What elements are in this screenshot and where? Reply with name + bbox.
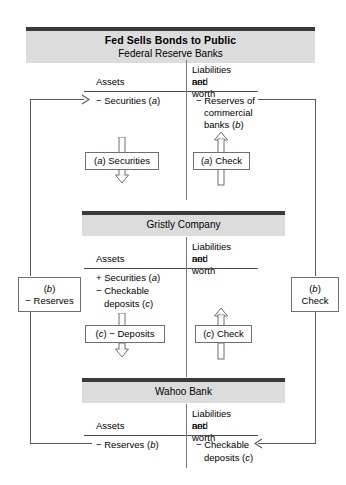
flow-box-securities-a: (a) Securities [85, 152, 159, 170]
section-header-fed: Fed Sells Bonds to Public Federal Reserv… [26, 27, 315, 63]
gristly-col-liabilities-line2: net worth [192, 253, 215, 276]
gristly-asset-entry-1: + Securities (a) [96, 272, 160, 284]
connector-left-top [30, 99, 84, 100]
fed-col-assets: Assets [96, 76, 125, 88]
gristly-title: Gristly Company [82, 215, 285, 236]
side-box-check-b: (b) Check [291, 277, 339, 312]
side-box-check-label-bottom: Check [302, 295, 329, 307]
connector-right-bottom [258, 443, 316, 444]
header-band-fed: Fed Sells Bonds to Public Federal Reserv… [26, 31, 315, 63]
fed-asset-entry-1: − Securities (a) [96, 95, 160, 107]
connector-right-vertical-lower [315, 312, 316, 443]
gristly-asset-entry-3: deposits (c) [104, 298, 153, 310]
arrowhead-left-wahoo-liabilities [252, 437, 264, 450]
connector-right-vertical-upper [315, 99, 316, 276]
arrowhead-right-fed-assets [80, 93, 92, 106]
side-box-check-label-top: (b) [309, 283, 321, 295]
side-box-reserves-label-top: (b) [44, 283, 56, 295]
connector-right-top [258, 99, 316, 100]
figure-title: Fed Sells Bonds to Public [26, 31, 315, 47]
fed-liability-entry-2: commercial [204, 107, 253, 119]
fed-center-divider [186, 60, 187, 200]
gristly-asset-entry-2: − Checkable [96, 285, 149, 297]
flow-box-check-a: (a) Check [193, 152, 250, 170]
wahoo-title: Wahoo Bank [82, 382, 285, 403]
gristly-col-assets: Assets [96, 253, 125, 265]
fed-column-rule [84, 91, 258, 92]
flow-box-check-c: (c) Check [195, 325, 252, 343]
connector-left-vertical-lower [30, 312, 31, 443]
wahoo-column-rule [84, 435, 258, 436]
side-box-reserves-label-bottom: − Reserves [25, 295, 73, 307]
wahoo-center-divider [186, 404, 187, 468]
section-header-wahoo: Wahoo Bank [82, 378, 285, 403]
wahoo-liability-entry-2: deposits (c) [204, 452, 253, 464]
gristly-column-rule [84, 268, 258, 269]
header-band-gristly: Gristly Company [82, 215, 285, 236]
flow-box-deposits-c: (c) − Deposits [85, 325, 165, 343]
wahoo-asset-entry-1: − Reserves (b) [96, 439, 159, 451]
connector-left-vertical-upper [30, 99, 31, 276]
side-box-reserves-b: (b) − Reserves [18, 277, 81, 312]
gristly-center-divider [186, 237, 187, 377]
header-band-wahoo: Wahoo Bank [82, 382, 285, 403]
wahoo-col-assets: Assets [96, 420, 125, 432]
figure-subtitle: Federal Reserve Banks [26, 47, 315, 63]
section-header-gristly: Gristly Company [82, 211, 285, 236]
fed-liability-entry-1: − Reserves of [196, 95, 255, 107]
wahoo-liability-entry-1: − Checkable [196, 439, 249, 451]
diagram-canvas: Fed Sells Bonds to Public Federal Reserv… [0, 0, 346, 485]
connector-left-bottom [30, 443, 92, 444]
